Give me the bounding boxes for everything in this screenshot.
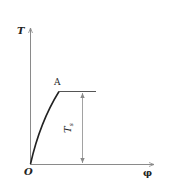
elastic-curve <box>31 92 60 165</box>
point-a-label: A <box>53 77 61 87</box>
ts-subscript: s <box>67 123 74 126</box>
x-axis-label: φ <box>143 167 152 178</box>
dimension-label-ts: Ts <box>62 123 74 133</box>
torque-twist-diagram: T O φ A Ts <box>0 0 171 181</box>
y-axis-label: T <box>17 25 26 36</box>
svg-text:Ts: Ts <box>62 123 74 133</box>
origin-label: O <box>24 166 33 177</box>
